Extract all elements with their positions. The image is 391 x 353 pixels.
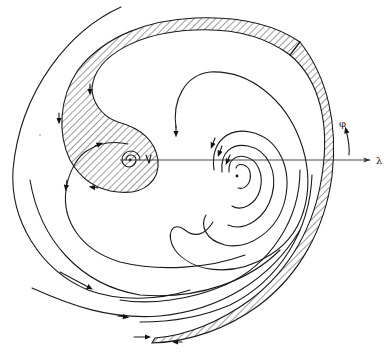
middle-trajectory [30, 180, 280, 296]
phi-arrow [346, 130, 349, 155]
outer-right-trajectory-2 [140, 175, 312, 322]
hatched-s-region [62, 18, 300, 193]
left-inner-trajectory [65, 190, 245, 268]
lambda-label: λ [376, 155, 383, 166]
right-spiral-1 [204, 131, 287, 246]
phase-portrait-svg: λ φ [0, 0, 391, 353]
diagram-canvas: λ φ [0, 0, 391, 353]
right-focus-point [236, 175, 239, 178]
outer-trajectory-arrow [60, 272, 90, 288]
right-focus-loop [170, 72, 308, 270]
right-spiral-3 [229, 156, 261, 208]
phi-label: φ [339, 118, 346, 129]
